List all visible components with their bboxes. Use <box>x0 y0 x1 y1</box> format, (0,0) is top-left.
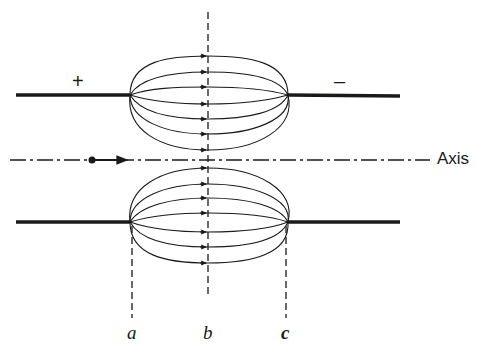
plane-c-label: c <box>281 322 289 344</box>
negative-electrode-label: – <box>334 70 345 93</box>
plane-b-label: b <box>203 322 213 344</box>
axis-label: Axis <box>437 149 469 169</box>
plane-a-label: a <box>127 322 137 344</box>
lower-field-arrows <box>200 168 206 263</box>
upper-field-arrows <box>200 56 206 150</box>
positive-electrode-label: + <box>72 70 84 93</box>
diagram-canvas <box>0 0 477 352</box>
upper-right-electrode <box>288 95 400 96</box>
upper-field-lines <box>130 56 289 150</box>
lower-field-lines <box>130 168 289 263</box>
electrostatic-lens-diagram: + – Axis a b c <box>0 0 477 352</box>
